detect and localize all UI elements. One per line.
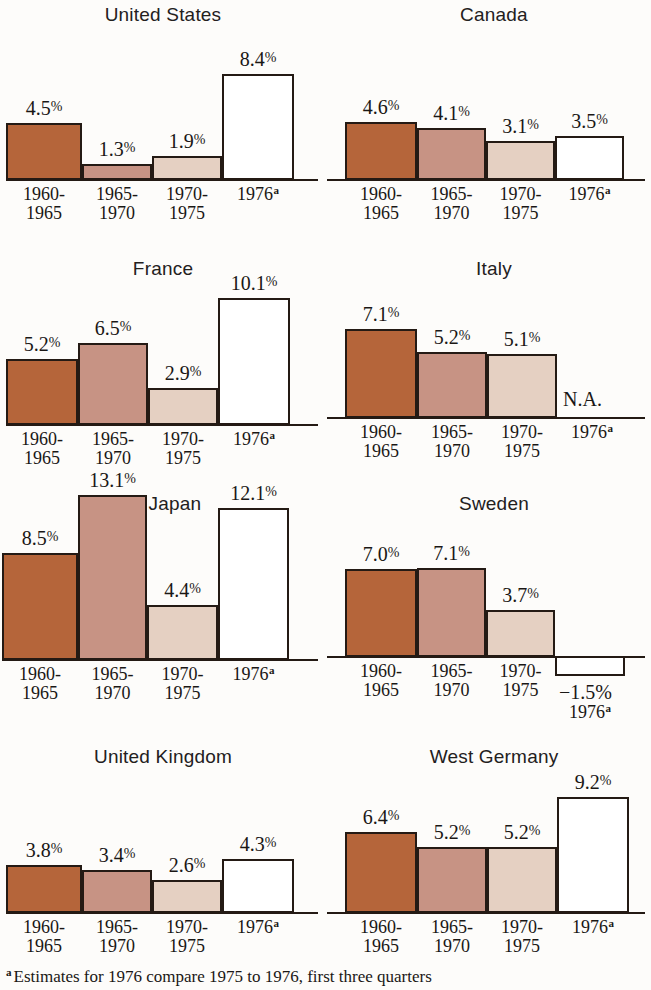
bar-value-label: 2.6% [144,854,230,877]
panel-title: United Kingdom [3,746,323,768]
bar-value-label: 3.7% [478,584,563,607]
bar-value-number: 6.5 [95,317,120,339]
period-line-2: 1975 [476,204,565,223]
bar [345,329,417,418]
bar-value-number: 7.1 [433,542,458,564]
bar [218,298,290,425]
footnote-ref: a [609,917,615,929]
period-tick-label: 1976a [212,918,304,937]
percent-sign: % [49,335,60,350]
bar-value-label: 10.1% [210,272,298,295]
period-year: 1976 [233,429,269,449]
footnote-ref: a [269,664,275,676]
percent-sign: % [595,681,612,703]
bar-value-number: 5.2 [434,821,459,843]
percent-sign: % [124,846,135,861]
bar-value-number: 2.6 [169,854,194,876]
period-tick-label: 1970-1975 [476,662,565,701]
bar-value-label: 9.2% [549,771,637,794]
period-line-1: 1976a [545,185,634,204]
bar-value-number: 1.9 [169,130,194,152]
bar [555,656,625,676]
percent-sign: % [459,328,470,343]
bar [486,610,555,657]
period-line-1: 1976a [547,423,637,442]
bar [6,865,82,913]
footnote-ref: a [270,429,276,441]
bar-value-number: 3.4 [99,844,124,866]
percent-sign: % [265,50,276,65]
percent-sign: % [47,528,58,543]
percent-sign: % [527,586,538,601]
percent-sign: % [459,823,470,838]
bar-value-number: 5.2 [504,821,529,843]
percent-sign: % [124,470,135,485]
period-year: 1976 [237,184,273,204]
percent-sign: % [265,483,276,498]
bar-value-label: 6.5% [70,317,156,340]
bar [78,495,147,660]
bar-value-number: 8.5 [22,527,47,549]
bar-value-number: 3.7 [502,584,527,606]
period-line-1: 1976a [212,918,304,937]
period-line-1: 1976a [208,665,299,684]
footnote-marker: a [6,966,12,978]
footnote-ref: a [606,702,612,714]
period-line-1: 1976a [212,185,304,204]
percent-sign: % [529,329,540,344]
period-tick-label: 1976a [208,430,300,449]
bar [557,797,629,913]
percent-sign: % [265,834,276,849]
panel-title: Canada [334,4,651,26]
bar-value-label: 2.9% [140,362,226,385]
period-year: 1976 [571,422,607,442]
bar [486,141,555,180]
percent-sign: % [124,139,135,154]
bar-value-label: 13.1% [70,469,155,492]
bar [6,123,82,180]
footnote-ref: a [274,184,280,196]
percent-sign: % [189,580,200,595]
bar [417,128,486,180]
bar [152,880,222,913]
bar-value-number: 2.9 [165,362,190,384]
chart-sheet: United States4.5%1960-19651.3%1965-19701… [0,0,651,990]
bar [417,352,487,418]
bar [6,359,78,425]
percent-sign: % [600,773,611,788]
not-available-label: N.A. [563,388,602,411]
percent-sign: % [388,808,399,823]
period-line-2: 1975 [142,937,232,956]
bar [82,164,152,180]
bar-value-number: 4.3 [240,833,265,855]
bar-value-label: 4.5% [0,97,90,120]
bar-value-number: 6.4 [363,806,388,828]
percent-sign: % [388,544,399,559]
footnote: aEstimates for 1976 compare 1975 to 1976… [6,966,432,987]
percent-sign: % [458,543,469,558]
period-line-2: 1975 [477,937,567,956]
percent-sign: % [596,111,607,126]
period-year: 1976 [569,702,605,722]
bar-value-number: −1.5 [559,681,595,703]
bar [78,343,148,425]
footnote-text: Estimates for 1976 compare 1975 to 1976,… [14,967,432,986]
percent-sign: % [458,104,469,119]
bar [417,847,487,913]
bar-value-label: 5.2% [479,821,565,844]
bar [148,388,218,425]
period-line-2: 1975 [476,681,565,700]
bar-value-label: 5.1% [479,328,565,351]
percent-sign: % [527,116,538,131]
bar [2,553,78,660]
panel-title: United States [3,4,323,26]
bar-value-number: 12.1 [230,482,265,504]
bar-value-number: 4.6 [363,96,388,118]
period-tick-label: 1976a [212,185,304,204]
bar-value-number: 4.5 [26,97,51,119]
bar-value-label: 7.1% [337,303,425,326]
bar [152,156,222,180]
percent-sign: % [190,364,201,379]
bar-value-number: 3.5 [571,110,596,132]
period-line-2: 1975 [138,449,228,468]
